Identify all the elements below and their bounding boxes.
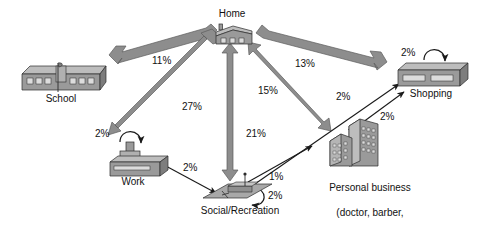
store-slab-icon xyxy=(398,63,468,86)
edge-home-shopping xyxy=(256,25,387,70)
trip-flow-diagram: Home School Work Shopping Social/Recreat… xyxy=(0,0,478,231)
edge-label-work-social: 2% xyxy=(183,162,197,173)
edge-label-home-social: 21% xyxy=(246,128,266,139)
edge-label-home-school: 11% xyxy=(152,55,171,66)
loop-label-work: 2% xyxy=(95,128,109,139)
factory-icon xyxy=(110,142,168,176)
school-building-icon xyxy=(22,63,106,92)
node-label-social: Social/Recreation xyxy=(187,205,293,216)
edge-label-home-work: 27% xyxy=(182,101,202,112)
house-icon xyxy=(216,24,252,44)
self-loop-shopping xyxy=(424,50,445,61)
node-label-work: Work xyxy=(110,176,156,187)
node-label-home: Home xyxy=(209,8,255,19)
node-label-school: School xyxy=(36,93,86,104)
loop-label-social: 2% xyxy=(268,190,282,201)
edge-label-home-personal: 15% xyxy=(258,85,278,96)
node-label-shopping: Shopping xyxy=(400,88,462,99)
self-loop-work xyxy=(120,132,141,143)
edge-label-social-shopping: 2% xyxy=(336,91,350,102)
edge-label-social-personal: 1% xyxy=(269,171,283,182)
edge-home-social xyxy=(222,43,238,181)
park-plaza-icon xyxy=(203,172,272,198)
edge-label-personal-shopping: 2% xyxy=(380,111,394,122)
loop-label-shopping: 2% xyxy=(401,47,415,58)
office-tower-icon xyxy=(330,119,378,166)
personal-business-line-1: Personal business xyxy=(300,182,440,194)
personal-business-line-2: (doctor, barber, xyxy=(300,207,440,219)
edge-label-home-shopping: 13% xyxy=(295,58,315,69)
node-label-personal-business: Personal business (doctor, barber, lawye… xyxy=(300,170,440,231)
